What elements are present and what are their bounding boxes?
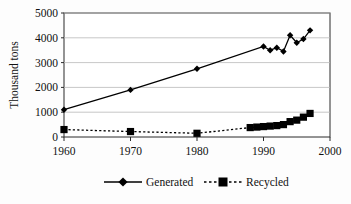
y-axis-tick-label: 2000 xyxy=(35,81,58,93)
chart-container: 010002000300040005000 196019701980199020… xyxy=(0,0,351,204)
square-marker-icon xyxy=(287,118,294,125)
x-axis-tick-label: 1960 xyxy=(53,145,76,157)
square-marker-icon xyxy=(253,123,260,130)
square-marker-icon xyxy=(300,114,307,121)
square-marker-icon xyxy=(219,178,228,187)
line-chart: 010002000300040005000 196019701980199020… xyxy=(0,0,351,204)
x-axis-tick-label: 1990 xyxy=(252,145,275,157)
legend-label-generated: Generated xyxy=(146,176,193,188)
square-marker-icon xyxy=(60,126,67,133)
square-marker-icon xyxy=(247,124,254,131)
square-marker-icon xyxy=(193,130,200,137)
y-axis-tick-label: 1000 xyxy=(35,106,58,118)
y-axis-tick-label: 3000 xyxy=(35,57,58,69)
y-axis-tick-label: 0 xyxy=(52,131,58,143)
square-marker-icon xyxy=(306,110,313,117)
square-marker-icon xyxy=(260,123,267,130)
x-axis-tick-label: 1980 xyxy=(186,145,209,157)
square-marker-icon xyxy=(293,117,300,124)
legend-label-recycled: Recycled xyxy=(246,176,289,189)
y-axis-tick-label: 5000 xyxy=(35,7,58,19)
square-marker-icon xyxy=(267,122,274,129)
y-axis-title: Thousand tons xyxy=(8,41,20,109)
square-marker-icon xyxy=(127,128,134,135)
x-axis-tick-label: 1970 xyxy=(119,145,142,157)
square-marker-icon xyxy=(280,121,287,128)
square-marker-icon xyxy=(273,122,280,129)
y-axis-tick-label: 4000 xyxy=(35,32,58,44)
x-axis-tick-label: 2000 xyxy=(319,145,342,157)
